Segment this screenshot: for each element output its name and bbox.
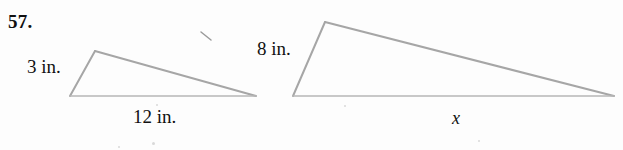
stray-pencil-tick-icon [201,32,211,40]
large-triangle-side-label: 8 in. [257,39,291,58]
large-triangle-left-side [293,22,325,96]
small-triangle-side-label: 3 in. [27,57,61,76]
scan-speck [118,146,120,148]
small-triangle [70,51,256,96]
exercise-figure-page: 57. 3 in. 12 in. 8 in. x [0,0,623,150]
large-triangle [293,22,614,96]
geometry-figure [0,0,623,150]
scan-speck [344,105,346,107]
small-triangle-base-label: 12 in. [133,107,176,126]
large-triangle-hypotenuse [325,22,614,96]
small-triangle-hypotenuse [95,51,256,96]
problem-number: 57. [8,12,32,31]
scan-speck [156,104,158,106]
small-triangle-left-side [70,51,95,96]
scan-speck [478,140,480,142]
scan-speck [152,142,155,145]
large-triangle-base-label: x [452,109,460,127]
